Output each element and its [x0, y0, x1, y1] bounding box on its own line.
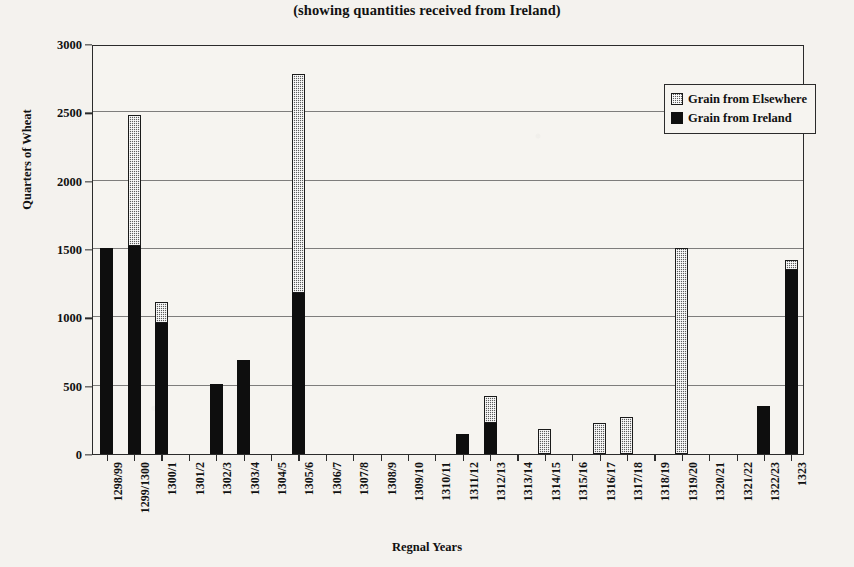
y-tick-mark	[85, 181, 92, 182]
bar-slot[interactable]	[203, 384, 230, 454]
bar-segment-elsewhere[interactable]	[484, 396, 497, 423]
bar-slot[interactable]	[476, 396, 503, 454]
bar-segment-ireland[interactable]	[237, 360, 250, 454]
x-tick-label: 1319/20	[686, 462, 701, 501]
x-tick-label: 1309/10	[412, 462, 427, 501]
bar-slot[interactable]	[285, 74, 312, 454]
x-tick-mark	[326, 454, 327, 461]
x-axis-ticks	[93, 453, 803, 454]
x-tick-label: 1313/14	[521, 462, 536, 501]
bar-segment-ireland[interactable]	[456, 434, 469, 454]
legend-label-ireland: Grain from Ireland	[688, 109, 792, 128]
bar-slot[interactable]	[750, 406, 777, 454]
y-tick-label: 2000	[22, 174, 82, 189]
stacked-bar[interactable]	[484, 396, 497, 454]
stacked-bar[interactable]	[675, 248, 688, 454]
x-tick-mark	[490, 454, 491, 461]
x-tick-label: 1306/7	[330, 462, 345, 495]
bar-segment-elsewhere[interactable]	[128, 115, 141, 246]
x-tick-label: 1315/16	[576, 462, 591, 501]
x-tick-label: 1307/8	[357, 462, 372, 495]
x-tick-label: 1304/5	[275, 462, 290, 495]
bar-slot[interactable]	[148, 302, 175, 454]
x-tick-label: 1302/3	[220, 462, 235, 495]
legend-label-elsewhere: Grain from Elsewhere	[688, 90, 807, 109]
x-tick-label: 1322/23	[768, 462, 783, 501]
x-tick-label: 1311/12	[467, 462, 482, 501]
x-tick-mark	[627, 454, 628, 461]
x-tick-mark	[435, 454, 436, 461]
chart-legend: Grain from Elsewhere Grain from Ireland	[664, 84, 816, 134]
x-tick-label: 1308/9	[385, 462, 400, 495]
bar-segment-elsewhere[interactable]	[785, 260, 798, 270]
bar-segment-ireland[interactable]	[100, 248, 113, 454]
stacked-bar[interactable]	[237, 360, 250, 454]
x-tick-label: 1299/1300	[138, 462, 153, 513]
x-tick-mark	[381, 454, 382, 461]
x-tick-mark	[216, 454, 217, 461]
stacked-bar[interactable]	[593, 423, 606, 454]
x-tick-mark	[134, 454, 135, 461]
bar-segment-ireland[interactable]	[785, 270, 798, 455]
y-tick-mark	[85, 44, 92, 45]
x-tick-label: 1314/15	[549, 462, 564, 501]
bar-segment-elsewhere[interactable]	[155, 302, 168, 323]
bar-slot[interactable]	[93, 248, 120, 454]
legend-swatch-ireland-icon	[671, 112, 683, 124]
x-tick-mark	[517, 454, 518, 461]
stacked-bar[interactable]	[456, 434, 469, 454]
bar-segment-elsewhere[interactable]	[538, 429, 551, 454]
bar-segment-elsewhere[interactable]	[593, 423, 606, 454]
x-tick-label: 1321/22	[741, 462, 756, 501]
bar-segment-ireland[interactable]	[757, 406, 770, 454]
bar-segment-elsewhere[interactable]	[675, 248, 688, 454]
x-tick-label: 1298/99	[111, 462, 126, 501]
x-tick-mark	[189, 454, 190, 461]
bar-slot[interactable]	[120, 115, 147, 454]
bar-segment-ireland[interactable]	[210, 384, 223, 454]
bar-segment-elsewhere[interactable]	[292, 74, 305, 293]
y-tick-mark	[85, 318, 92, 319]
y-tick-label: 0	[22, 448, 82, 463]
x-tick-mark	[408, 454, 409, 461]
bar-slot[interactable]	[586, 423, 613, 454]
bar-slot[interactable]	[230, 360, 257, 454]
x-tick-mark	[737, 454, 738, 461]
y-tick-label: 3000	[22, 38, 82, 53]
stacked-bar[interactable]	[210, 384, 223, 454]
stacked-bar[interactable]	[785, 260, 798, 454]
stacked-bar[interactable]	[757, 406, 770, 454]
bar-segment-ireland[interactable]	[292, 293, 305, 454]
bar-slot[interactable]	[531, 429, 558, 454]
stacked-bar[interactable]	[538, 429, 551, 454]
x-tick-mark	[764, 454, 765, 461]
stacked-bar[interactable]	[155, 302, 168, 454]
stacked-bar[interactable]	[100, 248, 113, 454]
y-tick-label: 500	[22, 379, 82, 394]
x-tick-label: 1301/2	[193, 462, 208, 495]
bar-slot[interactable]	[449, 434, 476, 454]
bar-segment-ireland[interactable]	[128, 246, 141, 454]
x-tick-label: 1318/19	[658, 462, 673, 501]
y-tick-mark	[85, 386, 92, 387]
y-tick-label: 2500	[22, 106, 82, 121]
x-tick-mark	[682, 454, 683, 461]
bar-slot[interactable]	[668, 248, 695, 454]
y-axis-title: Quarters of Wheat	[20, 55, 35, 265]
stacked-bar[interactable]	[620, 417, 633, 454]
x-tick-mark	[271, 454, 272, 461]
y-tick-mark	[85, 249, 92, 250]
bar-segment-ireland[interactable]	[155, 323, 168, 454]
stacked-bar[interactable]	[292, 74, 305, 454]
bar-segment-elsewhere[interactable]	[620, 417, 633, 454]
x-tick-label: 1320/21	[713, 462, 728, 501]
x-axis-title: Regnal Years	[0, 540, 854, 555]
x-tick-mark	[654, 454, 655, 461]
bar-slot[interactable]	[778, 260, 805, 454]
stacked-bar[interactable]	[128, 115, 141, 454]
legend-item-elsewhere: Grain from Elsewhere	[671, 90, 807, 109]
chart-subtitle: (showing quantities received from Irelan…	[0, 2, 854, 19]
x-tick-mark	[463, 454, 464, 461]
bar-segment-ireland[interactable]	[484, 423, 497, 454]
bar-slot[interactable]	[613, 417, 640, 454]
